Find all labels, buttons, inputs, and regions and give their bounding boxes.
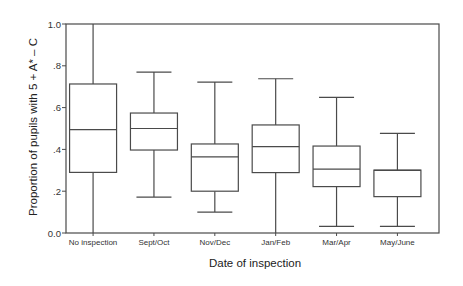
box-no-inspection: [70, 24, 117, 233]
iqr-box: [70, 84, 117, 172]
y-tick-label: 0.0: [48, 228, 61, 239]
boxes: [70, 24, 421, 233]
x-tick-label: May/June: [380, 238, 415, 247]
x-tick-label: Nov/Dec: [199, 238, 230, 247]
iqr-box: [313, 146, 360, 187]
x-tick-label: Jan/Feb: [261, 238, 290, 247]
y-axis: 0.0.2.4.6.81.0: [48, 19, 66, 239]
iqr-box: [191, 144, 238, 191]
box-may-june: [374, 133, 421, 226]
iqr-box: [374, 170, 421, 197]
y-tick-label: .2: [53, 186, 61, 197]
y-tick-label: 1.0: [48, 19, 61, 30]
box-nov-dec: [191, 82, 238, 212]
y-axis-title: Proportion of pupils with 5 + A* – C: [27, 38, 39, 216]
x-axis-title: Date of inspection: [209, 257, 301, 269]
iqr-box: [252, 125, 299, 173]
x-axis: No inspectionSept/OctNov/DecJan/FebMar/A…: [69, 233, 415, 247]
y-tick-label: .6: [53, 102, 61, 113]
y-tick-label: .4: [53, 144, 61, 155]
x-tick-label: Mar/Apr: [322, 238, 351, 247]
box-jan-feb: [252, 79, 299, 233]
y-tick-label: .8: [53, 60, 61, 71]
x-tick-label: No inspection: [69, 238, 117, 247]
box-sept-oct: [130, 72, 177, 197]
x-tick-label: Sept/Oct: [138, 238, 170, 247]
box-mar-apr: [313, 97, 360, 226]
boxplot-chart: 0.0.2.4.6.81.0 No inspectionSept/OctNov/…: [0, 0, 463, 286]
iqr-box: [130, 113, 177, 150]
